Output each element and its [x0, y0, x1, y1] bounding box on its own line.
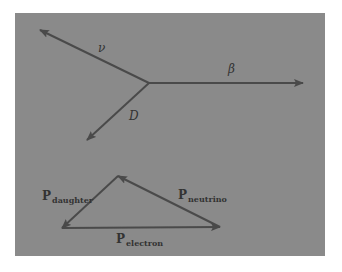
beta-label: β [228, 63, 235, 75]
p-electron-subscript: electron [126, 238, 163, 248]
daughter-arrow [87, 83, 149, 140]
p-daughter-main: P [42, 189, 51, 203]
p-neutrino-main: P [178, 188, 187, 202]
p-neutrino-subscript: neutrino [188, 194, 227, 204]
p-daughter-label: Pdaughter [42, 190, 93, 202]
p-neutrino-label: Pneutrino [178, 189, 227, 201]
p-electron-label: Pelectron [116, 233, 163, 245]
decay-diagram-svg [0, 0, 342, 272]
neutrino-arrow [40, 30, 149, 83]
p-electron-main: P [116, 232, 125, 246]
p-electron-arrow [62, 227, 220, 228]
p-daughter-subscript: daughter [52, 195, 93, 205]
nu-label: ν [98, 42, 105, 54]
d-label: D [129, 110, 139, 122]
